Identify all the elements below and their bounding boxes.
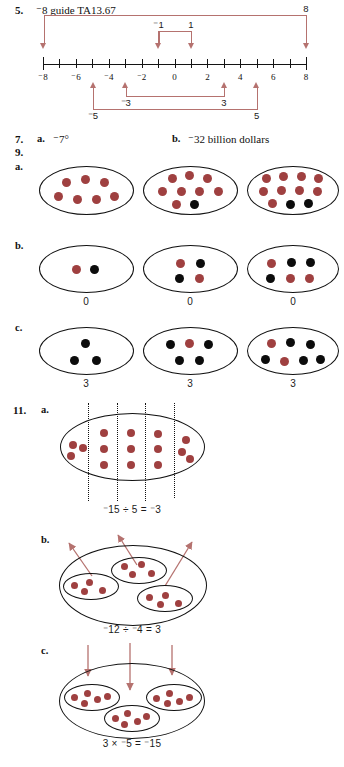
divider-line-4: [174, 403, 175, 498]
divider-line-2: [117, 403, 118, 501]
tick-label-6: 6: [263, 72, 283, 82]
counter-red: [127, 445, 135, 453]
counter-red: [72, 265, 81, 274]
problem-7-part-b-label: b.: [172, 133, 180, 144]
counter-red: [203, 174, 212, 183]
counter-red: [99, 587, 106, 594]
oval-11a: [60, 413, 205, 481]
oval-11b-group-1: [63, 573, 119, 600]
arrow-up--3: [122, 82, 128, 88]
counter-black: [266, 274, 275, 283]
counter-red: [178, 448, 186, 456]
problem-7-number: 7.: [15, 133, 23, 145]
problem-7-part-b-answer: ⁻32 billion dollars: [188, 133, 269, 146]
counter-red: [277, 186, 286, 195]
oval-9c-3: [247, 327, 339, 375]
counter-red: [195, 274, 204, 283]
counter-red: [164, 700, 171, 707]
counter-red: [177, 187, 186, 196]
divider-line-1: [88, 403, 89, 501]
counter-red: [166, 690, 173, 697]
bracket-label-bottom-outer-left: ⁻5: [78, 110, 108, 121]
tick--5: [92, 59, 93, 68]
counter-red: [110, 192, 119, 201]
tick-label--6: ⁻6: [66, 72, 86, 82]
counter-red: [186, 694, 193, 701]
oval-11b-group-3: [137, 585, 193, 612]
counter-red: [279, 172, 288, 181]
arrow-up--5: [90, 82, 96, 88]
tick--4: [109, 59, 110, 68]
problem-9-part-b-label: b.: [15, 240, 23, 251]
counter-red: [158, 187, 167, 196]
counter-black: [90, 265, 99, 274]
counter-red: [148, 570, 155, 577]
problem-9-part-c-label: c.: [15, 322, 22, 333]
counter-red: [81, 588, 88, 595]
bracket-outer-top-left-stem: [44, 15, 45, 44]
equation-11c: 3 × ⁻5 = ⁻15: [62, 738, 202, 749]
counter-red: [176, 259, 185, 268]
caption-9c-1: 3: [56, 378, 116, 389]
oval-9b-1: [39, 245, 134, 293]
oval-11c-group-3: [146, 684, 202, 711]
counter-black: [92, 356, 101, 365]
problem-11-part-b-label: b.: [41, 534, 49, 545]
counter-red: [297, 172, 306, 181]
bracket-label-top-inner-right: 1: [176, 19, 206, 30]
tick-label-4: 4: [230, 72, 250, 82]
tick--1: [158, 59, 159, 68]
counter-red: [280, 357, 289, 366]
counter-red: [84, 690, 91, 697]
counter-red: [154, 445, 162, 453]
bracket-label-bottom-inner-left: ⁻3: [111, 97, 141, 108]
counter-red: [176, 698, 183, 705]
counter-red: [54, 192, 63, 201]
counter-black: [196, 259, 205, 268]
tick-0: [175, 59, 176, 68]
counter-red: [121, 563, 128, 570]
counter-black: [287, 258, 296, 267]
counter-red: [127, 429, 135, 437]
counter-red: [143, 713, 150, 720]
counter-black: [81, 339, 90, 348]
arrow-down-1: [188, 43, 194, 49]
counter-red: [100, 178, 109, 187]
counter-red: [175, 600, 182, 607]
counter-red: [186, 455, 194, 463]
oval-11c-group-2: [104, 705, 160, 732]
counter-black: [304, 199, 313, 208]
oval-9a-1: [39, 166, 134, 215]
divider-line-3: [145, 403, 146, 501]
counter-red: [67, 452, 75, 460]
tick-1: [191, 59, 192, 68]
counter-red: [121, 721, 128, 728]
counter-red: [314, 174, 323, 183]
bracket-outer-bottom-left-stem: [93, 88, 94, 110]
problem-9-number: 9.: [15, 146, 23, 158]
counter-red: [157, 601, 164, 608]
counter-red: [94, 696, 101, 703]
bracket-outer-top: [44, 15, 307, 16]
equation-11a: ⁻15 ÷ 5 = ⁻3: [62, 504, 202, 515]
counter-black: [166, 340, 175, 349]
answer-key-page: 5. ⁻8 guide TA13.67 ⁻8 ⁻6 ⁻4 ⁻2 0 2 4 6 …: [0, 0, 344, 767]
counter-red: [92, 195, 101, 204]
tick-3: [224, 59, 225, 68]
counter-red: [153, 695, 160, 702]
problem-5-number: 5.: [15, 4, 23, 16]
tick-7: [290, 59, 291, 68]
bracket-label-bottom-outer-right: 5: [242, 110, 272, 121]
counter-red: [69, 441, 77, 449]
counter-red: [172, 200, 181, 209]
counter-red: [214, 187, 223, 196]
counter-red: [138, 561, 145, 568]
caption-9b-1: 0: [56, 296, 116, 307]
counter-red: [154, 461, 162, 469]
oval-9b-3: [247, 245, 339, 293]
arrow-up-3: [221, 82, 227, 88]
tick--8: [43, 57, 44, 70]
bracket-label-bottom-inner-right: 3: [209, 97, 239, 108]
counter-red: [104, 693, 111, 700]
counter-red: [267, 259, 276, 268]
